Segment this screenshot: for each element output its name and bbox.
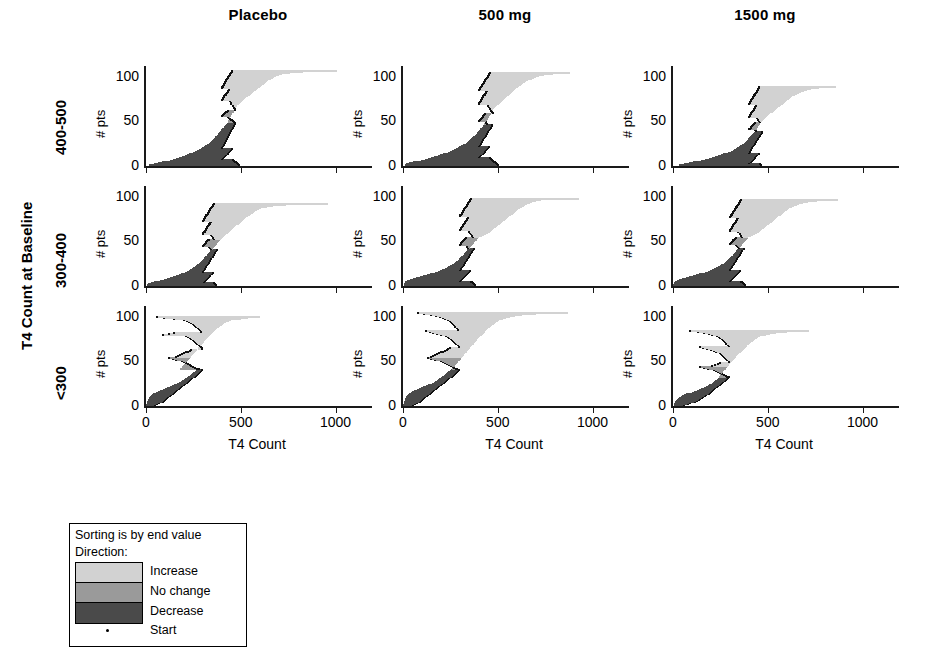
y-axis-title: # pts	[93, 110, 108, 138]
y-axis-title: # pts	[620, 230, 635, 258]
x-axis-title: T4 Count	[143, 436, 371, 452]
start-marker-dot	[470, 281, 472, 283]
start-marker-dot	[208, 239, 210, 241]
start-marker-dot	[425, 330, 427, 332]
start-marker-dot	[488, 146, 490, 148]
plot-area	[403, 306, 621, 406]
patient-bar	[759, 86, 836, 88]
panel-Placebo-lt300: 05001000050100# ptsT4 Count	[143, 306, 375, 446]
start-marker-dot	[759, 163, 761, 165]
x-axis-line	[401, 166, 629, 168]
y-tick-label: 50	[105, 232, 139, 248]
start-marker-dot	[758, 86, 760, 88]
start-marker-dot	[232, 159, 234, 161]
y-tick-label: 100	[362, 188, 396, 204]
panel-500mg-400-500: 050100# pts	[400, 66, 632, 206]
start-marker-dot	[473, 248, 475, 250]
x-axis-title: T4 Count	[400, 436, 628, 452]
start-marker-dot	[743, 248, 745, 250]
start-marker-dot	[758, 153, 760, 155]
legend-start-dot-icon	[106, 629, 109, 632]
x-tick-label: 1000	[563, 414, 623, 430]
x-tick	[863, 408, 864, 413]
start-marker-dot	[201, 369, 203, 371]
y-tick-label: 0	[362, 397, 396, 413]
y-tick-label: 50	[362, 112, 396, 128]
x-axis-line	[144, 406, 372, 408]
x-axis-title: T4 Count	[670, 436, 898, 452]
figure-root: Placebo 500 mg 1500 mg T4 Count at Basel…	[0, 0, 925, 669]
column-header-500mg: 500 mg	[400, 6, 610, 23]
x-tick	[673, 288, 674, 293]
y-axis-line	[401, 186, 403, 287]
y-tick-label: 100	[105, 188, 139, 204]
start-marker-dot	[190, 349, 192, 351]
legend-label-no-change: No change	[150, 584, 210, 598]
plot-area	[403, 186, 621, 286]
y-tick-label: 100	[632, 68, 666, 84]
x-tick-label: 0	[373, 414, 433, 430]
x-tick-label: 0	[116, 414, 176, 430]
start-marker-dot	[717, 363, 719, 365]
start-marker-dot	[190, 365, 192, 367]
x-tick	[498, 288, 499, 293]
patient-bar	[741, 199, 838, 201]
x-tick	[593, 288, 594, 293]
row-label-400-500: 400-500	[52, 100, 69, 155]
start-marker-dot	[196, 368, 198, 370]
legend-direction-title: Direction:	[75, 545, 128, 559]
x-tick	[593, 408, 594, 413]
x-axis-line	[144, 286, 372, 288]
start-marker-dot	[689, 330, 691, 332]
y-tick-label: 0	[105, 277, 139, 293]
start-marker-dot	[735, 237, 737, 239]
patient-bar	[471, 198, 579, 200]
x-tick	[673, 408, 674, 413]
x-tick	[336, 408, 337, 413]
x-tick	[403, 168, 404, 173]
start-marker-dot	[699, 346, 701, 348]
y-axis-line	[144, 186, 146, 287]
y-tick-label: 50	[632, 112, 666, 128]
y-tick-label: 100	[362, 68, 396, 84]
start-marker-dot	[187, 363, 189, 365]
panel-Placebo-300-400: 050100# pts	[143, 186, 375, 326]
start-marker-dot	[761, 131, 763, 133]
column-header-placebo: Placebo	[153, 6, 363, 23]
y-tick-label: 0	[105, 157, 139, 173]
patient-bar	[232, 70, 337, 72]
start-marker-dot	[216, 249, 218, 251]
start-marker-dot	[231, 148, 233, 150]
x-tick	[241, 408, 242, 413]
y-axis-line	[671, 306, 673, 407]
y-tick-label: 100	[105, 68, 139, 84]
x-axis-line	[144, 166, 372, 168]
panel-1500mg-lt300: 05001000050100# ptsT4 Count	[670, 306, 902, 446]
x-tick	[768, 408, 769, 413]
y-tick-label: 0	[632, 397, 666, 413]
x-tick	[336, 288, 337, 293]
x-tick-label: 500	[738, 414, 798, 430]
legend-label-start: Start	[150, 623, 176, 637]
patient-bar	[214, 203, 328, 205]
start-marker-dot	[231, 70, 233, 72]
start-marker-dot	[427, 357, 429, 359]
row-label-300-400: 300-400	[52, 233, 69, 288]
plot-area	[673, 66, 891, 166]
x-tick	[498, 168, 499, 173]
x-tick	[146, 168, 147, 173]
start-marker-dot	[417, 312, 419, 314]
start-marker-dot	[212, 272, 214, 274]
panel-Placebo-400-500: 050100# pts	[143, 66, 375, 206]
x-tick	[673, 168, 674, 173]
y-tick-label: 0	[632, 277, 666, 293]
y-tick-label: 100	[632, 188, 666, 204]
plot-area	[403, 66, 621, 166]
y-axis-title: # pts	[350, 110, 365, 138]
x-axis-line	[401, 286, 629, 288]
x-axis-line	[671, 406, 899, 408]
start-marker-dot	[469, 270, 471, 272]
patient-bar	[418, 312, 568, 314]
x-tick	[241, 168, 242, 173]
y-tick-label: 0	[362, 157, 396, 173]
